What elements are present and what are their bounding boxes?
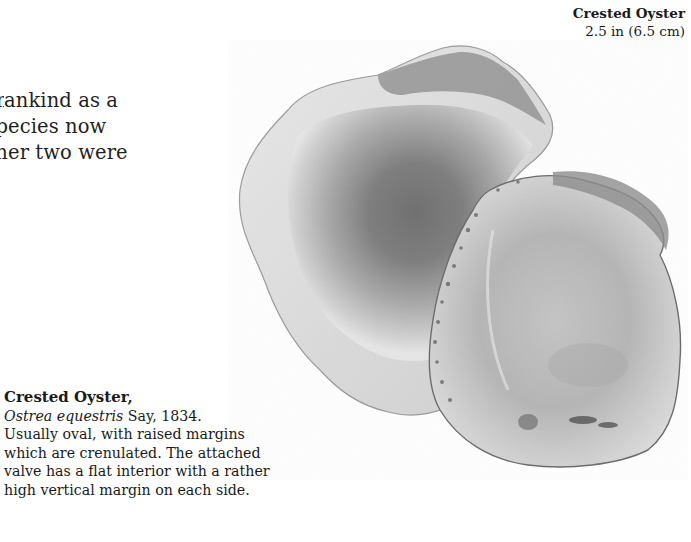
oyster-specimen-image (228, 40, 688, 480)
clipped-prefix: oth (0, 140, 8, 166)
specimen-name: Crested Oyster (573, 4, 685, 22)
scientific-authority: Say, 1834. (123, 408, 201, 424)
caption-description-line: valve has a flat interior with a rather (4, 462, 270, 481)
body-text-fragment: mankind as a species now other two were (0, 88, 128, 166)
specimen-size-label: Crested Oyster 2.5 in (6.5 cm) (573, 4, 685, 40)
specimen-size: 2.5 in (6.5 cm) (573, 22, 685, 40)
caption-description-line: Usually oval, with raised margins (4, 425, 270, 444)
caption-description-line: which are crenulated. The attached (4, 444, 270, 463)
body-text-line: species now (0, 114, 128, 140)
body-text-line: other two were (0, 140, 128, 166)
caption-scientific-name: Ostrea equestris Say, 1834. (4, 407, 270, 426)
caption-title: Crested Oyster, (4, 388, 270, 407)
oyster-shell-illustration (228, 40, 688, 480)
body-text-line: mankind as a (0, 88, 128, 114)
scientific-name: Ostrea equestris (4, 408, 123, 424)
specimen-caption: Crested Oyster, Ostrea equestris Say, 18… (4, 388, 270, 499)
field-guide-page: mankind as a species now other two were … (0, 0, 691, 542)
caption-description-line: high vertical margin on each side. (4, 481, 270, 500)
clipped-prefix: sp (0, 114, 8, 140)
